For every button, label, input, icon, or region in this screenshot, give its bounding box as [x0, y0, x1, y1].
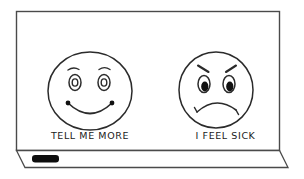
happy-mouth-corner-right-icon	[110, 101, 115, 106]
whiteboard-drawing	[0, 0, 304, 179]
marker-icon	[32, 155, 59, 163]
happy-face	[48, 52, 132, 130]
sad-face-outline	[179, 52, 253, 128]
scene-root: TELL ME MORE I FEEL SICK	[0, 0, 304, 179]
sad-face	[179, 52, 253, 128]
happy-pupil-right-icon	[101, 79, 107, 86]
sad-pupil-left-icon	[201, 82, 208, 92]
happy-pupil-left-icon	[72, 79, 78, 86]
happy-face-outline	[48, 52, 132, 130]
happy-mouth-corner-left-icon	[66, 101, 71, 106]
sad-pupil-right-icon	[226, 82, 233, 92]
